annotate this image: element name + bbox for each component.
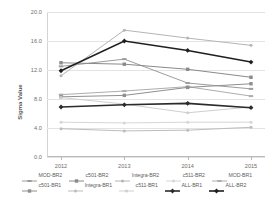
data-point [28,189,31,192]
legend-item-c501-br2[interactable]: c501-BR2 [69,171,108,179]
legend-row: c501-BR1Integra-BR1c511-BR1ALL-BR1ALL-BR… [22,180,262,190]
legend-item-mod-br1[interactable]: MOD-BR1 [212,171,252,179]
legend-label: c511-BR2 [183,172,205,178]
series-c501-br2 [59,61,252,79]
legend-item-integra-br2[interactable]: Integra-BR2 [115,171,159,179]
legend-label: c501-BR2 [86,172,109,178]
legend-label: Integra-BR1 [85,182,112,188]
data-point [59,61,62,64]
y-axis-tick-label: 4.0 [2,125,42,131]
legend-swatch-icon [68,181,83,189]
legend-item-mod-br2[interactable]: MOD-BR2 [22,171,62,179]
legend-item-c511-br1[interactable]: c511-BR1 [119,181,158,189]
legend-row: MOD-BR2c501-BR2Integra-BR2c511-BR2MOD-BR… [22,170,262,180]
data-point [170,189,175,194]
series-line [61,127,251,131]
data-point [250,121,253,124]
data-point [74,190,77,193]
data-point [249,105,254,110]
data-point [186,129,189,132]
data-point [186,37,189,40]
data-point [186,121,189,124]
data-point [249,88,253,90]
line-chart: Sigma Value 0.04.08.012.016.020.0 201220… [0,0,276,203]
y-axis-tick-label: 20.0 [2,9,42,15]
data-point [123,121,126,124]
x-axis-tick-mark [124,157,125,160]
legend-label: ALL-BR1 [181,182,202,188]
data-point [59,105,64,110]
data-point [249,60,254,65]
data-point [123,63,126,66]
data-point [186,111,189,114]
x-axis-tick-label: 2013 [118,163,130,169]
plot-area: 0.04.08.012.016.020.0 2012201320142015 [47,12,265,157]
legend-label: MOD-BR2 [39,172,63,178]
data-point [59,65,63,67]
data-point [249,95,253,97]
x-axis-tick-mark [188,157,189,160]
series-line [61,30,251,76]
data-point [123,29,126,32]
data-point [122,102,127,107]
data-point [125,190,128,193]
legend-label: ALL-BR2 [226,182,247,188]
data-point [249,76,252,79]
legend-swatch-icon [22,171,37,179]
legend-swatch-icon [212,171,227,179]
x-axis-tick-mark [251,157,252,160]
series-integra-br1 [60,126,253,133]
gridline [47,157,265,158]
legend-swatch-icon [165,181,180,189]
data-point [214,189,219,194]
series-layer [47,12,265,157]
chart-legend: MOD-BR2c501-BR2Integra-BR2c511-BR2MOD-BR… [22,170,262,190]
data-point [185,82,189,84]
legend-swatch-icon [115,171,130,179]
x-axis-tick-label: 2012 [55,163,67,169]
data-point [250,44,253,47]
legend-label: MOD-BR1 [228,172,252,178]
series-integra-br2 [60,29,253,78]
legend-item-c501-br1[interactable]: c501-BR1 [22,181,61,189]
y-axis-tick-label: 0.0 [2,154,42,160]
x-axis-tick-label: 2014 [181,163,193,169]
series-c501-br1 [59,82,252,98]
data-point [185,48,190,53]
data-point [123,129,126,132]
legend-label: c501-BR1 [39,182,62,188]
y-axis-tick-label: 12.0 [2,67,42,73]
data-point [185,101,190,106]
series-line [61,84,251,97]
data-point [60,121,63,124]
legend-item-c511-br2[interactable]: c511-BR2 [166,171,205,179]
data-point [122,58,126,60]
data-point [122,39,127,44]
data-point [249,82,252,85]
legend-swatch-icon [69,171,84,179]
data-point [122,90,126,92]
legend-swatch-icon [166,171,181,179]
legend-label: c511-BR1 [136,182,158,188]
series-line [61,63,251,78]
data-point [60,74,63,77]
y-axis-tick-label: 8.0 [2,96,42,102]
data-point [60,127,63,130]
series-c511-br2 [60,121,253,125]
legend-item-all-br2[interactable]: ALL-BR2 [209,181,246,189]
data-point [250,126,253,129]
data-point [59,68,64,73]
legend-swatch-icon [119,181,134,189]
legend-label: Integra-BR2 [132,172,159,178]
data-point [186,86,189,89]
x-axis-tick-label: 2015 [245,163,257,169]
legend-swatch-icon [22,181,37,189]
y-axis-tick-label: 16.0 [2,38,42,44]
series-line [61,103,251,107]
data-point [186,68,189,71]
legend-item-integra-br1[interactable]: Integra-BR1 [68,181,112,189]
data-point [60,96,63,99]
legend-item-all-br1[interactable]: ALL-BR1 [165,181,202,189]
x-axis-tick-mark [61,157,62,160]
legend-swatch-icon [209,181,224,189]
